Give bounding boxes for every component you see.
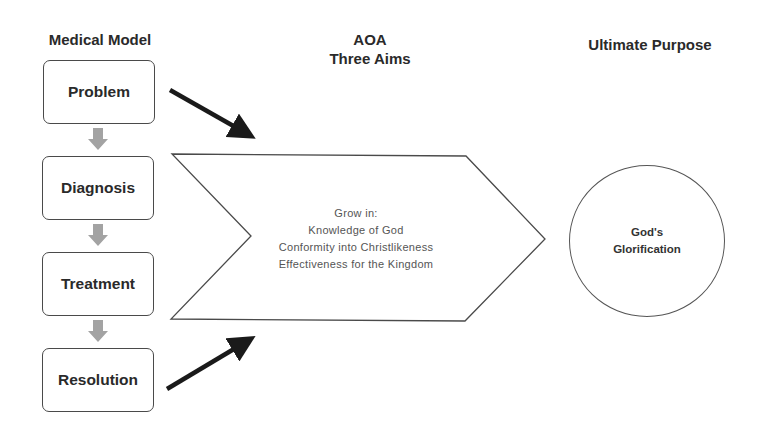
arrow-problem-to-aoa-icon (170, 90, 244, 132)
gods-glorification-circle: God's Glorification (569, 165, 725, 317)
purpose-line2: Glorification (613, 241, 681, 258)
aoa-aims-text: Grow in: Knowledge of God Conformity int… (236, 205, 476, 273)
aoa-aim-effectiveness: Effectiveness for the Kingdom (236, 256, 476, 273)
purpose-line1: God's (631, 224, 663, 241)
aoa-aims-intro: Grow in: (236, 205, 476, 222)
arrow-resolution-to-aoa-icon (167, 343, 244, 389)
aoa-aim-conformity: Conformity into Christlikeness (236, 239, 476, 256)
aoa-aim-knowledge: Knowledge of God (236, 222, 476, 239)
